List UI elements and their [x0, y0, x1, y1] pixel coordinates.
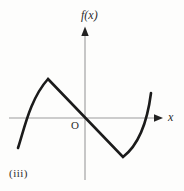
x-axis-label: x [168, 111, 173, 123]
x-axis-arrowhead-icon [154, 114, 163, 121]
y-axis-label: f(x) [81, 9, 98, 21]
graph-canvas [0, 0, 184, 191]
function-graph-figure: f(x) x O (iii) [0, 0, 184, 191]
figure-caption: (iii) [9, 168, 28, 179]
origin-label: O [71, 120, 79, 131]
y-axis-arrowhead-icon [81, 27, 88, 37]
